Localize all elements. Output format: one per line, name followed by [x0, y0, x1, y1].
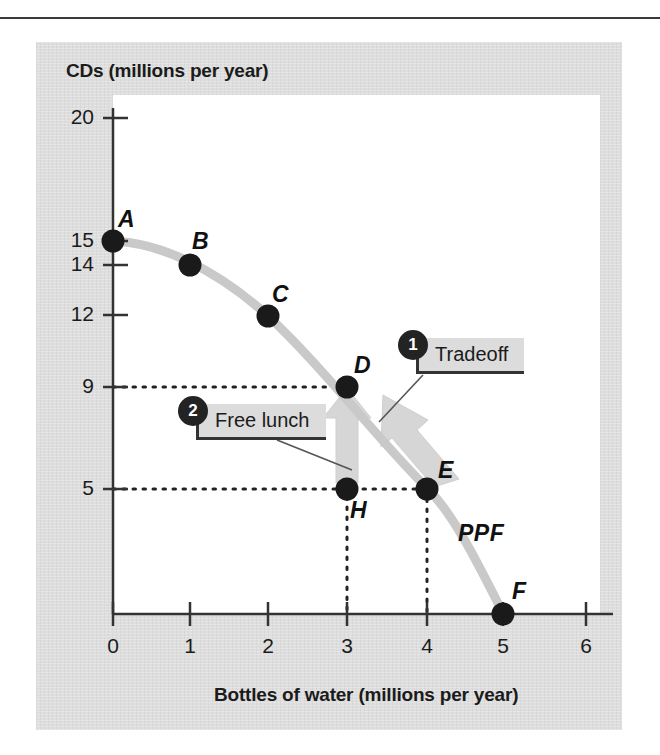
y-tick-label-9: 9 [48, 374, 94, 398]
x-tick-label-1: 1 [175, 634, 205, 658]
callout-tradeoff-box: Tradeoff [416, 338, 524, 374]
x-tick-label-0: 0 [98, 634, 128, 658]
callout-free-lunch-box: Free lunch [196, 404, 326, 440]
y-tick-label-15: 15 [48, 228, 94, 252]
point-label-H: H [350, 497, 367, 524]
data-point-E [416, 478, 439, 501]
data-point-F [492, 603, 515, 626]
y-tick-label-12: 12 [48, 302, 94, 326]
x-tick-label-6: 6 [571, 634, 601, 658]
point-label-E: E [438, 457, 453, 484]
ppf-curve-label: PPF [458, 520, 504, 547]
y-tick-label-20: 20 [48, 105, 94, 129]
x-tick-label-5: 5 [488, 634, 518, 658]
point-label-D: D [354, 352, 371, 379]
x-tick-label-4: 4 [412, 634, 442, 658]
point-label-F: F [512, 578, 526, 605]
y-axis-ticks [103, 118, 128, 489]
x-tick-label-2: 2 [253, 634, 283, 658]
callout-tradeoff-badge: 1 [398, 330, 428, 360]
point-label-B: B [192, 228, 209, 255]
point-label-C: C [272, 281, 289, 308]
data-point-B [179, 254, 202, 277]
x-tick-label-3: 3 [332, 634, 362, 658]
y-tick-label-14: 14 [48, 252, 94, 276]
point-label-A: A [118, 206, 135, 233]
y-tick-label-5: 5 [48, 476, 94, 500]
callout-free-lunch-badge: 2 [178, 396, 208, 426]
